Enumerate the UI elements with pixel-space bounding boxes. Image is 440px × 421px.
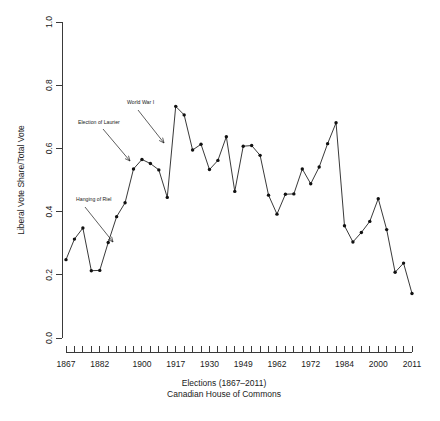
- data-point: [81, 226, 84, 229]
- x-tick-label: 1900: [132, 359, 151, 369]
- data-point: [123, 201, 126, 204]
- data-point: [132, 167, 135, 170]
- data-point: [174, 105, 177, 108]
- annotation-label: World War I: [127, 99, 154, 105]
- data-point: [199, 143, 202, 146]
- y-tick-label: 0.2: [44, 269, 54, 281]
- data-point: [242, 144, 245, 147]
- data-point: [115, 215, 118, 218]
- x-tick-label: 2011: [403, 359, 422, 369]
- x-axis-title-line1: Elections (1867–2011): [182, 378, 267, 388]
- data-point: [107, 241, 110, 244]
- data-point: [385, 228, 388, 231]
- x-tick-label: 1882: [90, 359, 109, 369]
- data-point: [292, 192, 295, 195]
- x-tick-label: 1949: [234, 359, 253, 369]
- data-point: [275, 212, 278, 215]
- data-point: [250, 144, 253, 147]
- data-point: [301, 167, 304, 170]
- y-tick-label: 0.0: [44, 332, 54, 344]
- data-point: [410, 292, 413, 295]
- x-tick-label: 1972: [301, 359, 320, 369]
- data-point: [402, 261, 405, 264]
- y-tick-label: 0.8: [44, 79, 54, 91]
- data-point: [343, 224, 346, 227]
- data-point: [191, 148, 194, 151]
- y-tick-label: 0.4: [44, 205, 54, 217]
- data-point: [98, 269, 101, 272]
- x-tick-label: 2000: [369, 359, 388, 369]
- data-point: [225, 135, 228, 138]
- data-point: [166, 196, 169, 199]
- data-point: [334, 121, 337, 124]
- data-point: [149, 162, 152, 165]
- data-point: [326, 142, 329, 145]
- data-point: [258, 154, 261, 157]
- line-chart-svg: 0.00.20.40.60.81.0 Liberal Vote Share/To…: [0, 0, 440, 421]
- data-point: [317, 165, 320, 168]
- data-point: [267, 193, 270, 196]
- chart-figure: 0.00.20.40.60.81.0 Liberal Vote Share/To…: [0, 0, 440, 421]
- annotation-label: Election of Laurier: [78, 119, 120, 125]
- y-tick-label: 0.6: [44, 142, 54, 154]
- x-tick-label: 1984: [335, 359, 354, 369]
- x-axis-title-line2: Canadian House of Commons: [167, 389, 281, 399]
- y-axis-title: Liberal Vote Share/Total Vote: [16, 125, 26, 235]
- data-point: [64, 258, 67, 261]
- data-point: [208, 168, 211, 171]
- x-tick-label: 1867: [57, 359, 76, 369]
- data-point: [216, 159, 219, 162]
- data-point: [90, 269, 93, 272]
- x-tick-label: 1930: [200, 359, 219, 369]
- y-tick-label: 1.0: [44, 16, 54, 28]
- data-point: [351, 240, 354, 243]
- data-point: [377, 197, 380, 200]
- data-point: [309, 182, 312, 185]
- data-point: [284, 193, 287, 196]
- data-point: [157, 168, 160, 171]
- data-point: [182, 113, 185, 116]
- data-point: [360, 231, 363, 234]
- data-point: [368, 220, 371, 223]
- data-point: [233, 190, 236, 193]
- x-tick-label: 1962: [268, 359, 287, 369]
- data-point: [73, 237, 76, 240]
- data-point: [393, 271, 396, 274]
- annotation-label: Hanging of Riel: [76, 196, 111, 202]
- data-point: [140, 158, 143, 161]
- x-tick-label: 1917: [166, 359, 185, 369]
